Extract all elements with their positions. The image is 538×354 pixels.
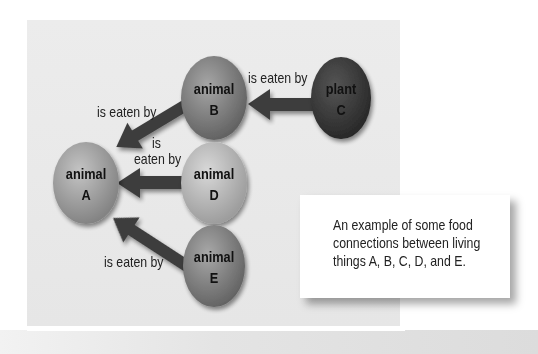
node-b-label: animal B [186, 78, 242, 120]
node-b-kind: animal [186, 78, 242, 99]
edge-label-d-a-line1: is [152, 134, 161, 151]
node-e-label: animal E [186, 246, 242, 288]
node-c-label: plant C [313, 78, 369, 120]
node-d-id: D [186, 184, 242, 205]
node-a-label: animal A [58, 163, 114, 205]
node-a-kind: animal [58, 163, 114, 184]
arrow-c-to-b [248, 89, 313, 120]
node-d-kind: animal [186, 163, 242, 184]
edge-label-b-a: is eaten by [97, 103, 156, 120]
caption-box: An example of some food connections betw… [300, 195, 510, 298]
node-b-id: B [186, 99, 242, 120]
edge-label-e-a: is eaten by [104, 253, 163, 270]
node-e-id: E [186, 267, 242, 288]
arrow-d-to-a [117, 168, 182, 198]
node-c-kind: plant [313, 78, 369, 99]
node-c-id: C [313, 99, 369, 120]
edge-label-d-a-line2: eaten by [134, 150, 181, 167]
node-a-id: A [58, 184, 114, 205]
node-d-label: animal D [186, 163, 242, 205]
caption-text: An example of some food connections betw… [333, 216, 503, 270]
edge-label-c-b: is eaten by [248, 69, 307, 86]
node-e-kind: animal [186, 246, 242, 267]
